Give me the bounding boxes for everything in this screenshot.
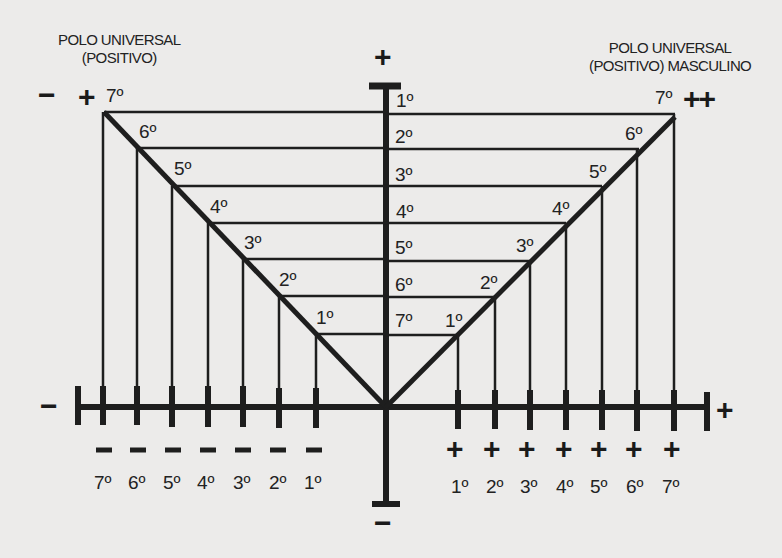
bottom-right-degree-3: 3º: [520, 477, 538, 496]
left-pole-title-line1: POLO UNIVERSAL: [58, 32, 180, 47]
right-pole-title: POLO UNIVERSAL (POSITIVO) MASCULINO: [589, 40, 751, 73]
center-degree-5: 5º: [395, 238, 413, 257]
bottom-right-plus-4: +: [555, 434, 573, 464]
top-axis-plus-sign: +: [374, 42, 392, 72]
left-diagonal-1: 1º: [316, 308, 334, 327]
left-diagonal-6: 6º: [139, 122, 157, 141]
bottom-right-plus-1: +: [446, 434, 464, 464]
right-diagonal-6: 6º: [625, 124, 643, 143]
bottom-right-plus-3: +: [518, 434, 536, 464]
right-pole-title-line2: (POSITIVO) MASCULINO: [589, 58, 751, 73]
top-right-plus-plus-sign: ++: [683, 84, 714, 114]
right-diagonal-3: 3º: [516, 236, 534, 255]
bottom-right-plus-7: +: [663, 434, 681, 464]
bottom-right-degree-5: 5º: [590, 477, 608, 496]
bottom-left-degree-7: 7º: [94, 473, 112, 492]
bottom-left-degree-1: 1º: [304, 473, 322, 492]
bottom-right-degree-4: 4º: [556, 477, 574, 496]
center-degree-4: 4º: [396, 202, 414, 221]
right-pole-title-line1: POLO UNIVERSAL: [589, 40, 751, 55]
right-diagonal-1: 1º: [445, 311, 463, 330]
top-left-minus-sign: −: [38, 80, 56, 110]
diagram-lines: [0, 0, 782, 558]
center-degree-3: 3º: [395, 165, 413, 184]
right-diagonal-4: 4º: [552, 199, 570, 218]
polarity-diagram: POLO UNIVERSAL (POSITIVO) POLO UNIVERSAL…: [0, 0, 782, 558]
center-degree-2: 2º: [395, 127, 413, 146]
bottom-right-degree-7: 7º: [662, 477, 680, 496]
left-diagonal-5: 5º: [174, 159, 192, 178]
bottom-right-plus-6: +: [625, 434, 643, 464]
left-axis-minus-sign: −: [40, 391, 58, 421]
left-diagonal-2: 2º: [279, 270, 297, 289]
left-diagonal-3: 3º: [244, 233, 262, 252]
left-diagonal-4: 4º: [210, 197, 228, 216]
bottom-right-degree-2: 2º: [486, 477, 504, 496]
right-diagonal-7: 7º: [655, 88, 673, 107]
left-pole-title-line2: (POSITIVO): [58, 50, 180, 65]
bottom-right-plus-2: +: [483, 434, 501, 464]
bottom-right-degree-6: 6º: [626, 477, 644, 496]
right-diagonal-2: 2º: [480, 273, 498, 292]
left-pole-title: POLO UNIVERSAL (POSITIVO): [58, 32, 180, 65]
bottom-left-degree-2: 2º: [269, 473, 287, 492]
left-diagonal-7: 7º: [106, 86, 124, 105]
right-axis-plus-sign: +: [716, 395, 734, 425]
bottom-left-degree-4: 4º: [197, 473, 215, 492]
center-degree-7: 7º: [395, 311, 413, 330]
bottom-left-degree-3: 3º: [233, 473, 251, 492]
top-left-plus-sign: +: [78, 82, 96, 112]
bottom-left-degree-5: 5º: [163, 473, 181, 492]
center-degree-6: 6º: [395, 275, 413, 294]
bottom-axis-minus-sign: −: [374, 508, 392, 538]
center-degree-1: 1º: [396, 91, 414, 110]
bottom-left-degree-6: 6º: [128, 473, 146, 492]
bottom-right-degree-1: 1º: [451, 477, 469, 496]
right-diagonal-5: 5º: [589, 162, 607, 181]
bottom-right-plus-5: +: [590, 434, 608, 464]
